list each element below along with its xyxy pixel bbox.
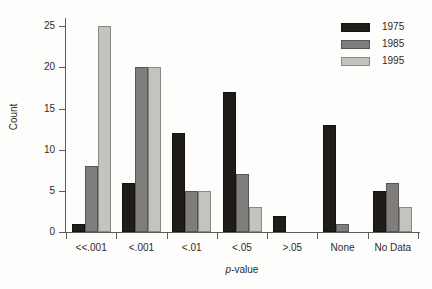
x-axis-category-label: <.001 xyxy=(116,243,166,253)
bar-1985-<.05 xyxy=(236,174,249,232)
bar-1985-No Data xyxy=(386,183,399,232)
y-axis-tick xyxy=(59,150,66,151)
legend-swatch-1985 xyxy=(341,40,370,49)
bar-1975-<.001 xyxy=(122,183,135,232)
legend-swatch-1975 xyxy=(341,23,370,32)
bar-1975-<.01 xyxy=(172,133,185,232)
x-axis-tick xyxy=(418,233,419,239)
chart-legend: 197519851995 xyxy=(341,20,429,71)
legend-label-1985: 1985 xyxy=(382,39,404,49)
x-axis-tick xyxy=(66,233,67,239)
x-axis-title-rest: -value xyxy=(231,264,258,275)
bar-1985-<<.001 xyxy=(85,166,98,232)
bar-1985-<.01 xyxy=(185,191,198,232)
x-axis-tick xyxy=(167,233,168,239)
bar-1975->.05 xyxy=(273,216,286,232)
x-axis-tick xyxy=(267,233,268,239)
bar-1975-No Data xyxy=(373,191,386,232)
y-axis-tick xyxy=(59,26,66,27)
x-axis-category-label: >.05 xyxy=(267,243,317,253)
y-axis-tick-label: 0 xyxy=(22,227,55,237)
bar-1995-No Data xyxy=(399,207,412,232)
bar-1995-<.001 xyxy=(148,67,161,232)
bar-1995-<.05 xyxy=(249,207,262,232)
bar-1975-<.05 xyxy=(223,92,236,232)
bar-1995-<.01 xyxy=(198,191,211,232)
legend-label-1975: 1975 xyxy=(382,22,404,32)
x-axis-tick xyxy=(217,233,218,239)
bar-chart-figure: Count p-value 0510152025 <<.001<.001<.01… xyxy=(0,0,432,289)
y-axis-title: Count xyxy=(9,87,19,147)
x-axis-category-label: <.01 xyxy=(167,243,217,253)
x-axis-category-label: <.05 xyxy=(217,243,267,253)
y-axis-tick-label: 25 xyxy=(22,21,55,31)
bar-1985-None xyxy=(336,224,349,232)
x-axis-category-label: None xyxy=(317,243,367,253)
y-axis-tick xyxy=(59,232,66,233)
bar-1975-<<.001 xyxy=(72,224,85,232)
bar-1995-<<.001 xyxy=(98,26,111,232)
legend-label-1995: 1995 xyxy=(382,56,404,66)
legend-swatch-1995 xyxy=(341,57,370,66)
x-axis-tick xyxy=(317,233,318,239)
bar-1975-None xyxy=(323,125,336,232)
y-axis-tick-label: 5 xyxy=(22,186,55,196)
legend-item-1995: 1995 xyxy=(341,54,429,68)
y-axis-tick-label: 15 xyxy=(22,104,55,114)
x-axis-category-label: No Data xyxy=(368,243,418,253)
legend-item-1975: 1975 xyxy=(341,20,429,34)
x-axis-category-label: <<.001 xyxy=(66,243,116,253)
y-axis-tick xyxy=(59,67,66,68)
y-axis-tick xyxy=(59,191,66,192)
y-axis-tick-label: 20 xyxy=(22,62,55,72)
x-axis-tick xyxy=(368,233,369,239)
y-axis-tick xyxy=(59,109,66,110)
x-axis-title: p-value xyxy=(66,265,418,275)
y-axis-tick-label: 10 xyxy=(22,145,55,155)
legend-item-1985: 1985 xyxy=(341,37,429,51)
bar-1985-<.001 xyxy=(135,67,148,232)
x-axis-tick xyxy=(116,233,117,239)
